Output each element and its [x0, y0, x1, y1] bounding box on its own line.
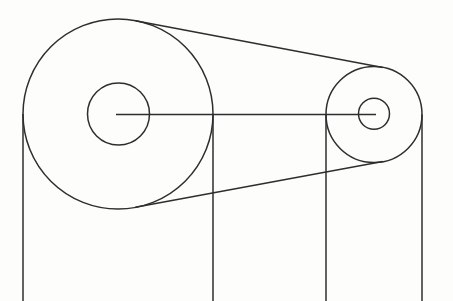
belt-upper-run: [135, 21, 382, 68]
belt-lower-run: [135, 161, 382, 207]
diagram-canvas: [0, 0, 453, 301]
belt-pulley-diagram: [0, 0, 453, 301]
